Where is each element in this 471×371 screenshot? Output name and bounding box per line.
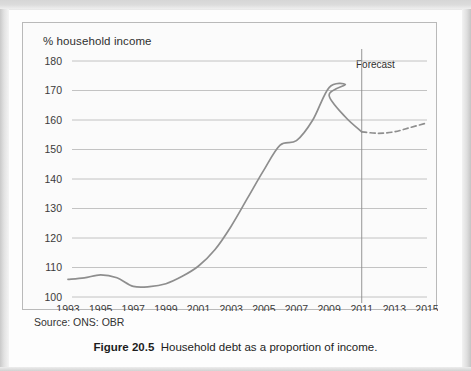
page-left-edge xyxy=(0,9,9,371)
x-tick-label: 1997 xyxy=(122,303,146,311)
page-bottom-edge xyxy=(0,367,471,371)
y-tick-label: 180 xyxy=(44,55,62,67)
y-tick-label: 120 xyxy=(44,232,62,244)
x-tick-label: 2003 xyxy=(220,303,244,311)
x-tick-label: 2005 xyxy=(252,303,276,311)
page-top-rule xyxy=(0,9,471,10)
x-tick-label: 2009 xyxy=(317,303,341,311)
line-chart-svg: 100110120130140150160170180 199319951997… xyxy=(23,23,438,311)
page-top-edge xyxy=(0,0,471,9)
x-tick-label: 2001 xyxy=(187,303,211,311)
figure-caption-number: Figure 20.5 xyxy=(94,341,155,353)
chart-panel: % household income Forecast 100110120130… xyxy=(22,22,437,310)
y-tick-labels-group: 100110120130140150160170180 xyxy=(44,55,62,303)
series-line-actual xyxy=(68,83,362,287)
x-tick-label: 2015 xyxy=(415,303,438,311)
y-tick-label: 160 xyxy=(44,114,62,126)
y-tick-label: 110 xyxy=(45,261,62,273)
series-line-forecast xyxy=(362,123,427,133)
page-right-edge xyxy=(462,9,471,371)
y-tick-label: 150 xyxy=(44,143,62,155)
figure-page: % household income Forecast 100110120130… xyxy=(0,0,471,371)
figure-caption: Figure 20.5 Household debt as a proporti… xyxy=(0,341,471,353)
figure-caption-text: Household debt as a proportion of income… xyxy=(161,341,378,353)
y-tick-label: 140 xyxy=(44,173,62,185)
x-tick-label: 2007 xyxy=(285,303,309,311)
y-tick-label: 100 xyxy=(44,291,62,303)
chart-area: % household income Forecast 100110120130… xyxy=(23,23,438,311)
x-tick-label: 2013 xyxy=(383,303,407,311)
x-tick-labels-group: 1993199519971999200120032005200720092011… xyxy=(56,303,438,311)
x-tick-label: 1999 xyxy=(154,303,178,311)
gridlines-group xyxy=(72,61,427,297)
y-tick-label: 130 xyxy=(44,202,62,214)
x-tick-label: 1993 xyxy=(56,303,80,311)
x-tick-label: 1995 xyxy=(89,303,113,311)
source-note: Source: ONS: OBR xyxy=(34,316,124,328)
y-tick-label: 170 xyxy=(44,84,62,96)
x-tick-label: 2011 xyxy=(350,303,373,311)
